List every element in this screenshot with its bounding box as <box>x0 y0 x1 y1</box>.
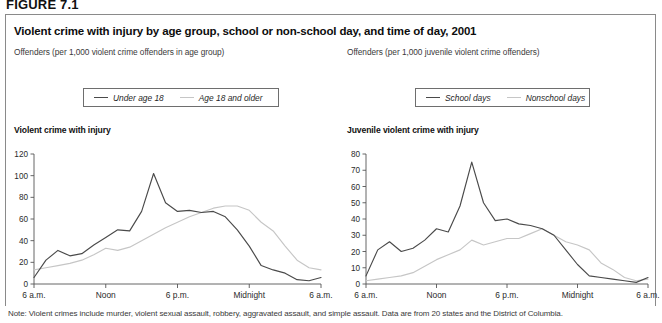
legend-item-nonschool-days: Nonschool days <box>507 93 586 103</box>
y-tick-label: 20 <box>19 258 29 267</box>
figure-title: Violent crime with injury by age group, … <box>14 25 476 37</box>
y-tick-label: 120 <box>14 150 28 159</box>
right-line-chart: 010203040506070806 a.m.Noon6 p.m.Midnigh… <box>335 140 662 308</box>
figure-page: FIGURE 7.1 Violent crime with injury by … <box>0 0 662 323</box>
right-chart-heading: Juvenile violent crime with injury <box>347 125 479 135</box>
x-tick-label: 6 a.m. <box>354 290 377 300</box>
y-tick-label: 40 <box>19 237 29 246</box>
legend-label: Under age 18 <box>113 93 164 103</box>
line-swatch-icon <box>94 97 108 98</box>
series-line-nonschool-days <box>366 229 648 281</box>
figure-note: Note: Violent crimes include murder, vio… <box>8 309 563 318</box>
left-line-chart: 0204060801001206 a.m.Noon6 p.m.Midnight6… <box>0 140 335 308</box>
line-swatch-icon <box>507 97 521 98</box>
series-line-school-days <box>366 162 648 282</box>
x-tick-label: 6 p.m. <box>495 290 518 300</box>
y-tick-label: 50 <box>351 199 361 208</box>
legend-label: Nonschool days <box>526 93 586 103</box>
series-line-under-age-18 <box>34 174 321 281</box>
x-tick-label: Midnight <box>562 290 594 300</box>
y-tick-label: 60 <box>19 215 29 224</box>
x-tick-label: Noon <box>96 290 116 300</box>
y-tick-label: 40 <box>351 215 361 224</box>
y-tick-label: 20 <box>351 248 361 257</box>
legend-item-school-days: School days <box>426 93 491 103</box>
x-tick-label: Midnight <box>233 290 265 300</box>
y-tick-label: 80 <box>19 193 29 202</box>
x-tick-label: 6 a.m. <box>636 290 659 300</box>
y-tick-label: 30 <box>351 231 361 240</box>
x-tick-label: Noon <box>426 290 446 300</box>
x-tick-label: 6 a.m. <box>309 290 332 300</box>
x-tick-label: 6 a.m. <box>22 290 45 300</box>
left-chart-heading: Violent crime with injury <box>14 125 111 135</box>
legend-left: Under age 18 Age 18 and older <box>83 88 279 107</box>
legend-item-age-18-and-older: Age 18 and older <box>180 93 263 103</box>
figure-number: FIGURE 7.1 <box>6 0 79 12</box>
y-tick-label: 80 <box>351 150 361 159</box>
left-panel-subtitle: Offenders (per 1,000 violent crime offen… <box>14 47 224 57</box>
legend-label: School days <box>445 93 491 103</box>
y-tick-label: 100 <box>14 172 28 181</box>
y-tick-label: 60 <box>351 183 361 192</box>
right-panel-subtitle: Offenders (per 1,000 juvenile violent cr… <box>347 47 540 57</box>
legend-label: Age 18 and older <box>199 93 263 103</box>
series-line-age-18-and-older <box>34 206 321 270</box>
line-swatch-icon <box>426 97 440 98</box>
legend-item-under-age-18: Under age 18 <box>94 93 164 103</box>
line-swatch-icon <box>180 97 194 98</box>
y-tick-label: 70 <box>351 166 361 175</box>
y-tick-label: 10 <box>351 264 361 273</box>
y-tick-label: 0 <box>23 280 28 289</box>
y-tick-label: 0 <box>355 280 360 289</box>
x-tick-label: 6 p.m. <box>166 290 189 300</box>
legend-right: School days Nonschool days <box>415 88 590 107</box>
